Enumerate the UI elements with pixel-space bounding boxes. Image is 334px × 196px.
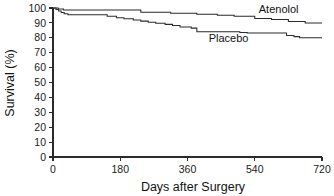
- x-tick-label-720: 720: [313, 163, 331, 175]
- y-axis-title: Survival (%): [3, 49, 17, 116]
- y-tick-label-0: 0: [40, 151, 46, 163]
- y-tick-label-100: 100: [28, 2, 46, 14]
- series-annotations: AtenololPlacebo: [209, 3, 299, 43]
- y-tick-label-20: 20: [34, 121, 46, 133]
- y-tick-label-60: 60: [34, 61, 46, 73]
- x-axis-tick-labels: 0180360540720: [50, 163, 331, 175]
- y-axis-tick-labels: 0102030405060708090100: [28, 2, 46, 163]
- x-axis-title: Days after Surgery: [141, 180, 246, 194]
- y-tick-label-70: 70: [34, 46, 46, 58]
- series-label-placebo: Placebo: [209, 32, 249, 44]
- x-tick-label-180: 180: [111, 163, 129, 175]
- x-tick-label-540: 540: [246, 163, 264, 175]
- y-tick-label-40: 40: [34, 91, 46, 103]
- y-tick-label-10: 10: [34, 136, 46, 148]
- chart-canvas: 0102030405060708090100 0180360540720 Ate…: [0, 0, 334, 196]
- x-axis-ticks: [53, 157, 322, 161]
- series-label-atenolol: Atenolol: [259, 3, 299, 15]
- y-tick-label-30: 30: [34, 106, 46, 118]
- survival-chart-figure: 0102030405060708090100 0180360540720 Ate…: [0, 0, 334, 196]
- x-tick-label-360: 360: [179, 163, 197, 175]
- y-axis-ticks: [49, 8, 53, 157]
- y-tick-label-90: 90: [34, 17, 46, 29]
- y-tick-label-50: 50: [34, 76, 46, 88]
- y-tick-label-80: 80: [34, 31, 46, 43]
- x-tick-label-0: 0: [50, 163, 56, 175]
